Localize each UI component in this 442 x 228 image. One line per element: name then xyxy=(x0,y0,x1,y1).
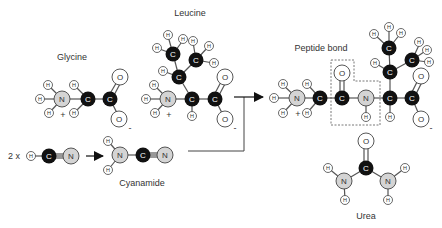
oxygen-atom: O xyxy=(358,133,374,149)
svg-text:H: H xyxy=(161,68,165,74)
hydrogen-atom: H xyxy=(189,37,198,46)
carbon-atom: C xyxy=(383,65,398,80)
carbon-atom: C xyxy=(166,47,181,62)
nitrogen-atom: N xyxy=(112,147,128,163)
svg-text:H: H xyxy=(72,110,76,116)
peptide-bond-label: Peptide bond xyxy=(294,43,347,53)
hydrogen-atom: H xyxy=(423,46,432,55)
svg-text:C: C xyxy=(140,151,146,160)
svg-text:C: C xyxy=(317,94,323,103)
svg-text:C: C xyxy=(387,68,393,77)
svg-text:C: C xyxy=(170,50,176,59)
svg-text:H: H xyxy=(425,47,429,53)
carbon-atom: C xyxy=(313,91,328,106)
hydrogen-atom: H xyxy=(385,23,394,32)
hydrogen-atom: H xyxy=(104,137,113,146)
svg-text:H: H xyxy=(106,138,110,144)
carbon-atom: C xyxy=(359,161,374,176)
hydrogen-atom: H xyxy=(362,113,371,122)
svg-text:H: H xyxy=(399,30,403,36)
svg-text:C: C xyxy=(46,152,52,161)
svg-text:O: O xyxy=(222,73,228,82)
svg-text:H: H xyxy=(72,82,76,88)
nitrogen-atom: N xyxy=(336,173,352,189)
oxygen-atom: O xyxy=(217,111,233,127)
nitrogen-atom: N xyxy=(289,90,305,106)
hydrogen-atom: H xyxy=(341,196,350,205)
dipeptide-molecule: Peptide bond H H H N + xyxy=(270,23,434,134)
hydrogen-atom: H xyxy=(384,196,393,205)
hydrogen-atom: H xyxy=(279,109,288,118)
svg-text:H: H xyxy=(181,36,185,42)
svg-text:C: C xyxy=(85,95,91,104)
urea-label: Urea xyxy=(356,211,376,221)
svg-text:H: H xyxy=(144,96,148,102)
hydrogen-atom: H xyxy=(324,164,333,173)
svg-text:C: C xyxy=(212,95,218,104)
urea-molecule: O C N N H H H H Urea xyxy=(324,133,410,221)
hydrogen-atom: H xyxy=(210,59,219,68)
svg-text:C: C xyxy=(409,94,415,103)
multiplier-label: 2 x xyxy=(8,151,21,161)
svg-text:C: C xyxy=(107,95,113,104)
hydrogen-atom: H xyxy=(179,35,188,44)
carbon-atom: C xyxy=(103,92,118,107)
hydrogen-atom: H xyxy=(370,30,379,39)
carbon-atom: C xyxy=(208,92,223,107)
hydrogen-atom: H xyxy=(164,31,173,40)
svg-text:H: H xyxy=(190,113,194,119)
glycine-molecule: Glycine H H H N + H H C C O O - xyxy=(36,52,132,133)
hydrogen-cyanide-molecule: 2 x H C N xyxy=(8,148,79,164)
hydrogen-atom: H xyxy=(371,59,380,68)
hydrogen-atom: H xyxy=(425,58,434,67)
svg-text:H: H xyxy=(305,81,309,87)
svg-text:H: H xyxy=(38,96,42,102)
svg-text:H: H xyxy=(106,167,110,173)
svg-text:C: C xyxy=(193,56,199,65)
svg-text:C: C xyxy=(339,94,345,103)
nitrogen-atom: N xyxy=(380,173,396,189)
hydrogen-atom: H xyxy=(386,113,395,122)
svg-text:H: H xyxy=(305,110,309,116)
hydrogen-atom: H xyxy=(279,80,288,89)
carbon-atom: C xyxy=(172,70,187,85)
hydrogen-atom: H xyxy=(104,166,113,175)
hydrogen-atom: H xyxy=(150,81,159,90)
oxygen-atom: O xyxy=(112,69,128,85)
svg-text:C: C xyxy=(387,94,393,103)
hydrogen-atom: H xyxy=(205,42,214,51)
hydrogen-atom: H xyxy=(303,109,312,118)
minus-charge: - xyxy=(430,123,433,133)
plus-charge: + xyxy=(60,110,65,120)
svg-text:H: H xyxy=(388,114,392,120)
hydrogen-atom: H xyxy=(270,94,279,103)
oxygen-atom: O xyxy=(111,111,127,127)
svg-text:N: N xyxy=(162,151,168,160)
svg-text:H: H xyxy=(326,165,330,171)
svg-text:C: C xyxy=(176,73,182,82)
svg-text:N: N xyxy=(59,95,65,104)
minus-charge: - xyxy=(234,123,237,133)
carbon-atom: C xyxy=(189,53,204,68)
svg-text:H: H xyxy=(212,60,216,66)
svg-text:N: N xyxy=(165,95,171,104)
svg-text:H: H xyxy=(153,110,157,116)
carbon-atom: C xyxy=(382,41,397,56)
svg-text:H: H xyxy=(427,59,431,65)
svg-text:H: H xyxy=(281,110,285,116)
hydrogen-atom: H xyxy=(44,81,53,90)
svg-text:N: N xyxy=(385,177,391,186)
leucine-label: Leucine xyxy=(174,8,206,18)
svg-text:O: O xyxy=(418,115,424,124)
cyanamide-molecule: H H N C N Cyanamide xyxy=(104,137,174,189)
hydrogen-atom: H xyxy=(45,109,54,118)
svg-text:H: H xyxy=(191,38,195,44)
svg-text:O: O xyxy=(418,72,424,81)
svg-text:H: H xyxy=(46,82,50,88)
nitrogen-atom: N xyxy=(63,148,79,164)
svg-text:H: H xyxy=(281,81,285,87)
minus-charge: - xyxy=(129,123,132,133)
hydrogen-atom: H xyxy=(303,80,312,89)
hydrogen-atom: H xyxy=(397,29,406,38)
hydrogen-atom: H xyxy=(70,109,79,118)
